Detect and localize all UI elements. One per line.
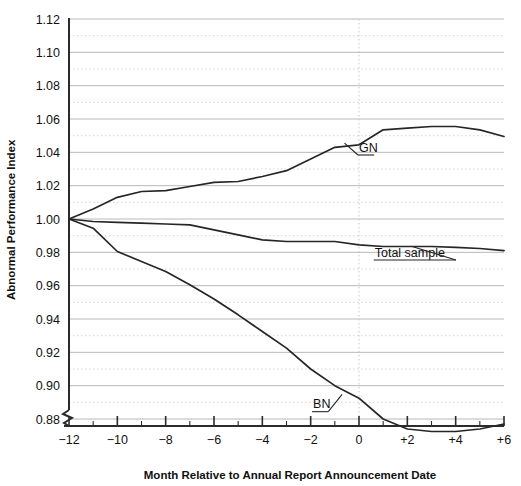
y-tick-label: 0.92: [36, 346, 60, 360]
x-axis-title: Month Relative to Annual Report Announce…: [144, 469, 436, 481]
abnormal-performance-index-chart: 0.880.900.920.940.960.981.001.021.041.06…: [0, 0, 521, 486]
y-tick-label: 1.12: [36, 13, 60, 27]
x-tick-label: −10: [107, 433, 128, 447]
x-tick-label: 0: [356, 433, 363, 447]
y-tick-label: 1.08: [36, 79, 60, 93]
y-tick-label: 0.88: [36, 413, 60, 427]
y-tick-label: 0.94: [36, 313, 60, 327]
y-axis-tick-labels: 0.880.900.920.940.960.981.001.021.041.06…: [36, 13, 60, 427]
x-tick-label: −4: [255, 433, 269, 447]
series-line-gn: [69, 127, 504, 220]
x-tick-label: −8: [159, 433, 173, 447]
y-tick-label: 1.10: [36, 46, 60, 60]
y-axis-title: Abnormal Performance Index: [5, 139, 17, 300]
x-tick-label: +2: [400, 433, 414, 447]
y-tick-label: 1.04: [36, 146, 60, 160]
y-tick-label: 0.96: [36, 279, 60, 293]
x-tick-label: −2: [304, 433, 318, 447]
grid-major-horizontal: [69, 19, 504, 419]
y-tick-label: 0.90: [36, 379, 60, 393]
chart-figure: 0.880.900.920.940.960.981.001.021.041.06…: [0, 0, 521, 486]
y-tick-label: 1.06: [36, 113, 60, 127]
series-label-gn: GN: [359, 141, 378, 155]
y-tick-label: 0.98: [36, 246, 60, 260]
x-axis: [64, 416, 504, 426]
x-tick-label: −6: [207, 433, 221, 447]
series-label-total-sample: Total sample: [375, 246, 445, 260]
series-label-bn: BN: [313, 397, 330, 411]
x-tick-label: −12: [58, 433, 79, 447]
x-tick-label: +4: [449, 433, 463, 447]
x-axis-tick-labels: −12−10−8−6−4−20+2+4+6: [58, 433, 511, 447]
series-annotations: GNTotal sampleBN: [312, 141, 456, 412]
y-axis-break-symbol: [63, 410, 72, 426]
y-tick-label: 1.02: [36, 179, 60, 193]
y-axis: [63, 18, 72, 426]
x-tick-label: +6: [497, 433, 511, 447]
y-tick-label: 1.00: [36, 213, 60, 227]
